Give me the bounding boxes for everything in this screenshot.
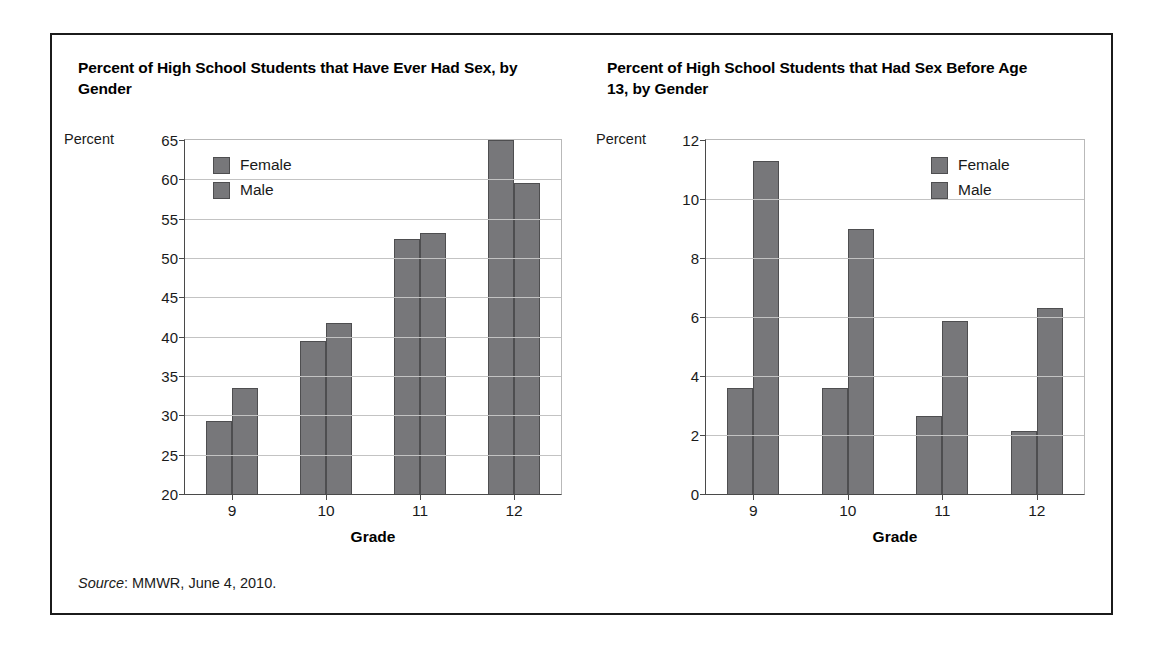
bar-female-grade-11 <box>394 239 420 494</box>
y-tick-mark <box>179 258 185 259</box>
figure-page: Percent of High School Students that Hav… <box>0 0 1164 656</box>
chart-panels: Percent of High School Students that Hav… <box>52 35 1111 613</box>
x-axis-title-right: Grade <box>706 528 1084 546</box>
y-tick-mark <box>179 219 185 220</box>
y-tick-label: 60 <box>161 171 178 188</box>
x-tick-mark <box>1037 494 1038 500</box>
y-tick-mark <box>700 140 706 141</box>
x-tick-label: 9 <box>228 502 237 520</box>
x-tick-label: 11 <box>412 502 428 520</box>
bar-female-grade-9 <box>727 388 753 494</box>
x-tick-label: 11 <box>934 502 950 520</box>
x-tick-mark <box>326 494 327 500</box>
chart-panel-left: Percent of High School Students that Hav… <box>52 35 592 613</box>
gridline <box>706 376 1084 377</box>
source-label: Source <box>78 575 124 591</box>
y-tick-mark <box>179 376 185 377</box>
bar-male-grade-12 <box>1037 308 1063 494</box>
bar-male-grade-10 <box>326 323 352 494</box>
gridline <box>185 219 561 220</box>
chart-title-right: Percent of High School Students that Had… <box>607 58 1047 100</box>
y-tick-label: 12 <box>682 132 699 149</box>
y-tick-label: 6 <box>691 309 699 326</box>
gridline <box>185 337 561 338</box>
x-tick-mark <box>942 494 943 500</box>
x-axis-title-left: Grade <box>185 528 561 546</box>
y-tick-mark <box>700 258 706 259</box>
y-tick-label: 0 <box>691 486 699 503</box>
bar-female-grade-10 <box>300 341 326 494</box>
source-note: Source: MMWR, June 4, 2010. <box>78 575 276 591</box>
plot-area-left: Female Male Grade 2025303540455055606591… <box>184 139 562 495</box>
gridline <box>706 258 1084 259</box>
gridline <box>185 415 561 416</box>
gridline <box>185 376 561 377</box>
y-tick-mark <box>179 494 185 495</box>
bars-layer-left <box>185 140 561 494</box>
x-tick-label: 10 <box>317 502 334 520</box>
y-tick-mark <box>700 435 706 436</box>
bar-female-grade-12 <box>1011 431 1037 494</box>
chart-panel-right: Percent of High School Students that Had… <box>592 35 1113 613</box>
y-tick-mark <box>179 140 185 141</box>
x-tick-mark <box>514 494 515 500</box>
x-tick-mark <box>232 494 233 500</box>
bar-male-grade-9 <box>232 388 258 494</box>
x-tick-mark <box>420 494 421 500</box>
y-tick-mark <box>179 179 185 180</box>
y-tick-label: 35 <box>161 368 178 385</box>
gridline <box>706 435 1084 436</box>
gridline <box>185 455 561 456</box>
plot-area-right: Female Male Grade 0246810129101112 <box>705 139 1085 495</box>
chart-title-left: Percent of High School Students that Hav… <box>78 58 518 100</box>
bar-male-grade-10 <box>848 229 874 495</box>
x-tick-mark <box>753 494 754 500</box>
x-tick-mark <box>848 494 849 500</box>
y-axis-label-left: Percent <box>64 131 114 147</box>
source-text: : MMWR, June 4, 2010. <box>124 575 276 591</box>
y-tick-mark <box>179 337 185 338</box>
y-tick-label: 65 <box>161 132 178 149</box>
bar-female-grade-12 <box>488 140 514 494</box>
y-tick-label: 8 <box>691 250 699 267</box>
bar-female-grade-11 <box>916 416 942 494</box>
x-tick-label: 10 <box>839 502 856 520</box>
x-tick-label: 12 <box>505 502 522 520</box>
y-tick-label: 40 <box>161 328 178 345</box>
y-tick-mark <box>179 297 185 298</box>
bar-female-grade-9 <box>206 421 232 494</box>
bar-male-grade-12 <box>514 183 540 494</box>
gridline <box>185 258 561 259</box>
y-tick-label: 2 <box>691 427 699 444</box>
y-tick-label: 45 <box>161 289 178 306</box>
y-tick-mark <box>700 199 706 200</box>
y-tick-label: 55 <box>161 210 178 227</box>
y-tick-label: 50 <box>161 250 178 267</box>
gridline <box>185 179 561 180</box>
gridline <box>706 199 1084 200</box>
y-tick-label: 25 <box>161 446 178 463</box>
bar-male-grade-9 <box>753 161 779 494</box>
gridline <box>185 297 561 298</box>
bar-female-grade-10 <box>822 388 848 494</box>
y-tick-label: 10 <box>682 191 699 208</box>
y-tick-label: 30 <box>161 407 178 424</box>
y-tick-label: 4 <box>691 368 699 385</box>
x-tick-label: 9 <box>749 502 758 520</box>
y-tick-label: 20 <box>161 486 178 503</box>
y-tick-mark <box>179 415 185 416</box>
figure-frame: Percent of High School Students that Hav… <box>50 33 1113 615</box>
y-tick-mark <box>179 455 185 456</box>
y-tick-mark <box>700 376 706 377</box>
y-tick-mark <box>700 317 706 318</box>
x-tick-label: 12 <box>1028 502 1045 520</box>
y-tick-mark <box>700 494 706 495</box>
y-axis-label-right: Percent <box>596 131 646 147</box>
bar-male-grade-11 <box>942 321 968 494</box>
gridline <box>706 317 1084 318</box>
